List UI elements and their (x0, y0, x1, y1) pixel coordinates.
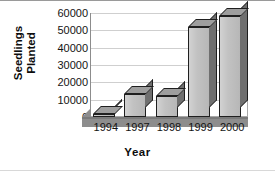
y-axis-tick-label: 40000 (57, 43, 88, 53)
bar-1999 (188, 27, 210, 117)
x-axis-tick-label: 2000 (215, 121, 249, 133)
y-axis-tick-label: 60000 (57, 8, 88, 18)
floor-bevel (82, 109, 90, 117)
bar-front-face (156, 96, 178, 117)
y-axis-title: Seedlings Planted (7, 10, 43, 96)
y-axis-tick-label: 50000 (57, 25, 88, 35)
bar-front-face (93, 114, 115, 117)
bar-side-face (240, 1, 248, 108)
chart-figure: Seedlings Planted 0100002000030000400005… (0, 0, 275, 171)
y-axis-tick-labels: 0100002000030000400005000060000 (44, 13, 90, 117)
bar-1997 (124, 94, 146, 117)
x-axis-title: Year (0, 146, 275, 158)
bar-1998 (156, 96, 178, 117)
bar-front-face (124, 94, 146, 117)
x-axis-tick-label: 1994 (89, 121, 123, 133)
y-axis-tick-label: 20000 (57, 77, 88, 87)
plot-floor-edge (82, 117, 248, 119)
y-axis-tick-label: 30000 (57, 60, 88, 70)
y-axis-title-line2: Planted (25, 26, 38, 80)
x-axis-tick-label: 1998 (152, 121, 186, 133)
x-axis-tick-label: 1997 (120, 121, 154, 133)
bar-front-face (219, 16, 241, 117)
bar-2000 (219, 16, 241, 117)
bar-1994 (93, 114, 115, 117)
y-axis-title-line1: Seedlings (12, 26, 25, 80)
y-axis-tick-label: 10000 (57, 95, 88, 105)
x-axis-tick-label: 1999 (184, 121, 218, 133)
plot-area (90, 13, 248, 117)
x-axis-tick-labels: 19941997199819992000 (86, 121, 262, 137)
bar-front-face (188, 27, 210, 117)
